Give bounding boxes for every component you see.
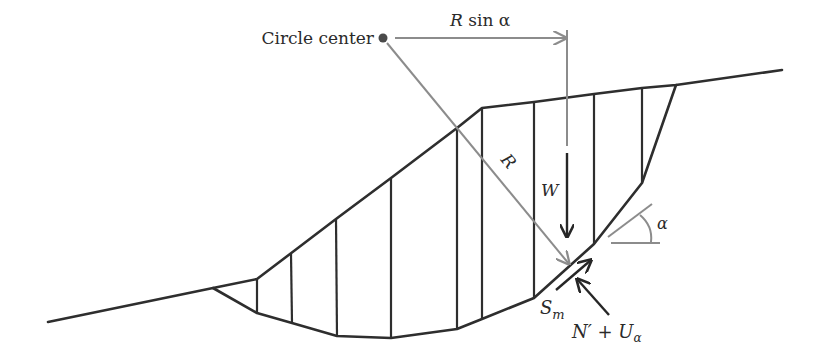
normal-force-label: N′ + Uα <box>571 321 642 345</box>
alpha-arc <box>640 215 651 242</box>
circle-center-label: Circle center <box>261 28 374 48</box>
slice-boundary <box>336 219 337 336</box>
shear-force-label: Sm <box>540 297 565 322</box>
slice-boundary <box>291 254 292 323</box>
r-sin-alpha-label: R sin α <box>449 10 511 30</box>
slice-boundaries <box>257 88 642 338</box>
slip-surface <box>213 85 676 338</box>
radius-label: R <box>496 149 520 173</box>
radius-arrow <box>387 43 569 264</box>
alpha-label: α <box>657 214 668 233</box>
slope-stability-diagram: Circle center R sin α R W α Sm N′ + Uα <box>0 0 823 360</box>
circle-center-point <box>379 34 388 43</box>
normal-force-arrow <box>577 279 609 315</box>
weight-label: W <box>541 180 560 200</box>
ground-surface <box>48 70 782 322</box>
